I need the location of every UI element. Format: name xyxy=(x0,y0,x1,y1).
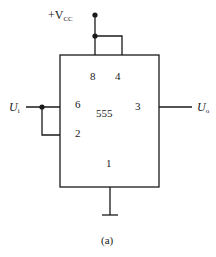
pin-2-label: 2 xyxy=(75,127,81,139)
pin4-wire xyxy=(95,36,122,55)
output-label: Uo xyxy=(197,100,210,115)
pin-4-label: 4 xyxy=(115,70,121,82)
vcc-label: +VCC xyxy=(48,8,73,23)
pin-3-label: 3 xyxy=(135,100,141,112)
input-label: Ui xyxy=(9,100,20,115)
pin-8-label: 8 xyxy=(90,70,96,82)
figure-caption: (a) xyxy=(101,234,114,247)
pin2-wire xyxy=(42,107,60,135)
pin-1-label: 1 xyxy=(106,157,112,169)
pin-6-label: 6 xyxy=(75,98,81,110)
chip-name-label: 555 xyxy=(96,107,113,119)
circuit-diagram: +VCC 8 4 6 555 3 2 1 Ui Uo (a) xyxy=(0,0,216,257)
